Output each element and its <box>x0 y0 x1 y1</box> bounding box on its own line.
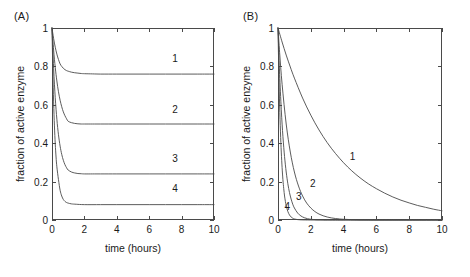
y-tick-a-left-3 <box>52 105 56 106</box>
x-tick-b-bottom-3 <box>376 216 377 220</box>
y-tick-b-right-2 <box>438 143 442 144</box>
x-tick-b-bottom-4 <box>409 216 410 220</box>
x-tick-b-top-5 <box>442 28 443 32</box>
plot-area-a <box>52 28 214 220</box>
y-tick-b-left-5 <box>278 28 282 29</box>
curve-b-2 <box>278 28 442 220</box>
x-tick-a-top-5 <box>214 28 215 32</box>
x-tick-label-a-3: 6 <box>146 224 152 235</box>
y-tick-b-right-3 <box>438 105 442 106</box>
panel-b-label: (B) <box>243 10 258 22</box>
curve-group-b <box>278 28 442 220</box>
y-tick-a-right-2 <box>210 143 214 144</box>
y-tick-label-b-5: 1 <box>248 23 274 34</box>
panel-a-label: (A) <box>14 10 29 22</box>
y-axis-title-b: fraction of active enzyme <box>240 66 252 182</box>
y-tick-b-left-2 <box>278 143 282 144</box>
x-tick-b-top-1 <box>311 28 312 32</box>
curve-label-b-2: 2 <box>310 177 316 188</box>
panel-b: (B) 024681000.20.40.60.81time (hours)fra… <box>235 0 470 277</box>
curve-label-a-1: 1 <box>172 52 178 63</box>
x-tick-a-bottom-1 <box>84 216 85 220</box>
x-axis-title-b: time (hours) <box>332 242 388 254</box>
y-tick-label-a-5: 1 <box>22 23 48 34</box>
x-tick-label-a-0: 0 <box>49 224 55 235</box>
x-tick-label-b-4: 8 <box>406 224 412 235</box>
curve-a-4 <box>52 28 214 205</box>
y-tick-a-left-5 <box>52 28 56 29</box>
y-tick-a-left-4 <box>52 66 56 67</box>
y-tick-a-right-4 <box>210 66 214 67</box>
y-tick-a-left-0 <box>52 220 56 221</box>
x-tick-label-a-1: 2 <box>82 224 88 235</box>
y-tick-b-right-1 <box>438 182 442 183</box>
panel-a: (A) 024681000.20.40.60.81time (hours)fra… <box>0 0 235 277</box>
y-tick-label-b-0: 0 <box>248 215 274 226</box>
y-tick-b-right-0 <box>438 220 442 221</box>
x-tick-label-b-0: 0 <box>275 224 281 235</box>
x-tick-label-a-4: 8 <box>179 224 185 235</box>
x-tick-a-top-2 <box>117 28 118 32</box>
x-tick-b-bottom-5 <box>442 216 443 220</box>
y-tick-a-left-1 <box>52 182 56 183</box>
x-tick-label-a-2: 4 <box>114 224 120 235</box>
x-tick-b-top-4 <box>409 28 410 32</box>
curve-a-2 <box>52 28 214 124</box>
y-tick-a-right-1 <box>210 182 214 183</box>
curve-a-3 <box>52 28 214 174</box>
x-tick-b-bottom-1 <box>311 216 312 220</box>
x-tick-label-b-1: 2 <box>308 224 314 235</box>
y-tick-a-right-5 <box>210 28 214 29</box>
curve-b-1 <box>278 28 442 211</box>
curve-label-a-3: 3 <box>172 152 178 163</box>
curve-b-3 <box>278 28 442 220</box>
y-tick-a-right-0 <box>210 220 214 221</box>
y-tick-b-left-4 <box>278 66 282 67</box>
y-axis-title-a: fraction of active enzyme <box>14 66 26 182</box>
x-tick-b-top-3 <box>376 28 377 32</box>
x-tick-label-b-2: 4 <box>341 224 347 235</box>
x-tick-a-top-1 <box>84 28 85 32</box>
y-tick-b-left-0 <box>278 220 282 221</box>
x-tick-b-top-2 <box>344 28 345 32</box>
x-tick-a-bottom-2 <box>117 216 118 220</box>
curve-label-a-4: 4 <box>172 183 178 194</box>
x-tick-a-bottom-5 <box>214 216 215 220</box>
y-tick-a-left-2 <box>52 143 56 144</box>
x-tick-label-b-3: 6 <box>374 224 380 235</box>
y-tick-b-right-5 <box>438 28 442 29</box>
curve-label-a-2: 2 <box>172 103 178 114</box>
x-tick-a-top-4 <box>182 28 183 32</box>
x-axis-title-a: time (hours) <box>105 242 161 254</box>
x-tick-a-bottom-3 <box>149 216 150 220</box>
x-tick-label-b-5: 10 <box>436 224 447 235</box>
x-tick-label-a-5: 10 <box>208 224 219 235</box>
y-tick-b-left-1 <box>278 182 282 183</box>
y-tick-label-a-0: 0 <box>22 215 48 226</box>
curve-b-4 <box>278 28 442 220</box>
x-tick-a-top-3 <box>149 28 150 32</box>
y-tick-b-right-4 <box>438 66 442 67</box>
curve-a-1 <box>52 28 214 74</box>
x-tick-a-bottom-4 <box>182 216 183 220</box>
curve-group-a <box>52 28 214 220</box>
y-tick-b-left-3 <box>278 105 282 106</box>
curve-label-b-3: 3 <box>296 191 302 202</box>
curve-label-b-4: 4 <box>284 201 290 212</box>
x-tick-b-bottom-2 <box>344 216 345 220</box>
curve-label-b-1: 1 <box>350 150 356 161</box>
y-tick-a-right-3 <box>210 105 214 106</box>
plot-area-b <box>278 28 442 220</box>
